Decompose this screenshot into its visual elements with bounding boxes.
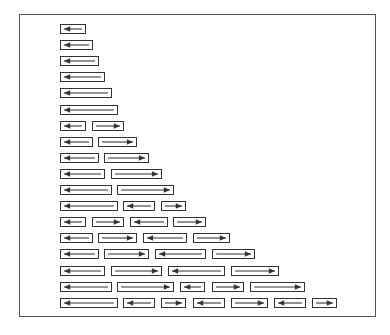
- arrow-box-right: [98, 233, 137, 243]
- arrow-right-icon: [213, 250, 254, 258]
- arrow-box-left: [130, 217, 168, 227]
- arrow-right-icon: [118, 186, 173, 194]
- arrow-box-left: [60, 40, 93, 50]
- arrow-box-left: [155, 249, 206, 259]
- arrow-left-icon: [61, 186, 111, 194]
- arrow-left-icon: [61, 234, 92, 242]
- arrow-right-icon: [174, 218, 205, 226]
- arrow-left-icon: [61, 89, 111, 97]
- arrow-box-left: [60, 72, 105, 82]
- arrow-left-icon: [61, 170, 104, 178]
- arrow-box-right: [193, 233, 230, 243]
- arrow-box-left: [168, 266, 225, 276]
- arrow-box-left: [123, 298, 155, 308]
- arrow-left-icon: [61, 202, 117, 210]
- arrow-left-icon: [124, 202, 154, 210]
- arrow-left-icon: [124, 299, 154, 307]
- arrow-box-left: [60, 233, 93, 243]
- arrow-box-left: [60, 169, 105, 179]
- arrow-left-icon: [156, 250, 205, 258]
- arrow-box-left: [60, 185, 112, 195]
- arrow-right-icon: [118, 283, 173, 291]
- arrow-box-left: [60, 217, 86, 227]
- arrow-box-right: [212, 282, 244, 292]
- arrow-left-icon: [61, 122, 85, 130]
- arrow-left-icon: [61, 299, 117, 307]
- arrow-box-left: [60, 24, 86, 34]
- arrow-box-right: [117, 282, 174, 292]
- arrow-right-icon: [112, 267, 161, 275]
- arrow-right-icon: [213, 283, 243, 291]
- arrow-left-icon: [61, 25, 85, 33]
- arrow-box-left: [60, 201, 118, 211]
- arrow-left-icon: [61, 218, 85, 226]
- arrow-right-icon: [232, 267, 278, 275]
- arrow-left-icon: [61, 154, 98, 162]
- arrow-right-icon: [93, 122, 123, 130]
- arrow-left-icon: [181, 283, 204, 291]
- arrow-box-left: [180, 282, 205, 292]
- arrow-box-right: [231, 266, 279, 276]
- arrow-box-right: [104, 153, 149, 163]
- arrow-left-icon: [275, 299, 305, 307]
- arrow-box-left: [274, 298, 306, 308]
- arrow-left-icon: [61, 267, 104, 275]
- arrow-box-right: [212, 249, 255, 259]
- arrow-left-icon: [61, 106, 117, 114]
- arrow-left-icon: [61, 283, 111, 291]
- arrow-left-icon: [194, 299, 224, 307]
- arrow-left-icon: [61, 57, 98, 65]
- arrow-box-right: [111, 266, 162, 276]
- arrow-box-right: [161, 298, 186, 308]
- arrow-right-icon: [232, 299, 267, 307]
- arrow-box-left: [60, 105, 118, 115]
- arrow-box-right: [117, 185, 174, 195]
- arrow-box-left: [60, 153, 99, 163]
- arrow-box-left: [60, 56, 99, 66]
- arrow-left-icon: [61, 138, 92, 146]
- arrow-box-right: [111, 169, 162, 179]
- arrow-right-icon: [99, 138, 136, 146]
- arrow-left-icon: [61, 73, 104, 81]
- arrow-right-icon: [194, 234, 229, 242]
- arrow-box-right: [92, 217, 124, 227]
- arrow-left-icon: [144, 234, 186, 242]
- arrow-box-right: [161, 201, 186, 211]
- arrow-box-left: [60, 88, 112, 98]
- arrow-left-icon: [61, 41, 92, 49]
- arrow-right-icon: [251, 283, 304, 291]
- arrow-right-icon: [162, 202, 185, 210]
- arrow-box-right: [92, 121, 124, 131]
- arrow-box-left: [60, 298, 118, 308]
- arrow-box-right: [250, 282, 305, 292]
- arrow-box-right: [173, 217, 206, 227]
- arrow-right-icon: [105, 154, 148, 162]
- arrow-box-left: [60, 137, 93, 147]
- arrow-right-icon: [105, 250, 148, 258]
- arrow-box-right: [98, 137, 137, 147]
- arrow-box-right: [312, 298, 337, 308]
- arrow-left-icon: [131, 218, 167, 226]
- arrow-box-left: [60, 282, 112, 292]
- arrow-right-icon: [162, 299, 185, 307]
- arrow-right-icon: [99, 234, 136, 242]
- arrow-right-icon: [93, 218, 123, 226]
- arrow-box-left: [143, 233, 187, 243]
- arrow-right-icon: [313, 299, 336, 307]
- arrow-box-right: [231, 298, 268, 308]
- arrow-box-left: [123, 201, 155, 211]
- arrow-box-left: [193, 298, 225, 308]
- arrow-right-icon: [112, 170, 161, 178]
- arrow-left-icon: [169, 267, 224, 275]
- arrow-box-left: [60, 121, 86, 131]
- arrow-left-icon: [61, 250, 98, 258]
- arrow-box-right: [104, 249, 149, 259]
- arrow-box-left: [60, 266, 105, 276]
- arrow-box-left: [60, 249, 99, 259]
